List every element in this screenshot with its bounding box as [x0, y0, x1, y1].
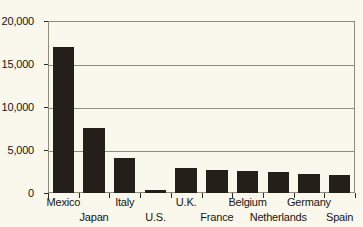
x-tick-label: Netherlands	[250, 211, 307, 223]
bar	[329, 175, 350, 193]
x-tick-label: Mexico	[47, 196, 81, 208]
bar	[237, 171, 258, 193]
bar	[175, 168, 196, 193]
x-tick-label: Spain	[326, 211, 353, 223]
y-tick-label: 5,000	[7, 144, 34, 156]
bar-chart: 05,00010,00015,00020,000 MexicoJapanItal…	[0, 0, 363, 227]
bar	[206, 170, 227, 193]
y-tick-label: 10,000	[2, 101, 34, 113]
bar	[114, 158, 135, 193]
y-tick-label: 15,000	[2, 58, 34, 70]
bar	[298, 174, 319, 193]
x-tick-label: U.K.	[176, 196, 197, 208]
x-tick-label: U.S.	[145, 211, 166, 223]
x-tick-label: Germany	[287, 196, 331, 208]
bars-layer	[48, 21, 355, 193]
x-tick-label: Italy	[115, 196, 134, 208]
x-tick-label: Japan	[80, 211, 109, 223]
x-axis-labels: MexicoJapanItalyU.S.U.K.FranceBelgiumNet…	[0, 196, 363, 227]
bar	[53, 47, 74, 193]
y-axis: 05,00010,00015,00020,000	[0, 0, 44, 227]
bar	[268, 172, 289, 193]
x-tick-label: Belgium	[228, 196, 266, 208]
y-tick-label: 20,000	[2, 15, 34, 27]
x-tick-label: France	[200, 211, 233, 223]
bar	[83, 128, 104, 193]
